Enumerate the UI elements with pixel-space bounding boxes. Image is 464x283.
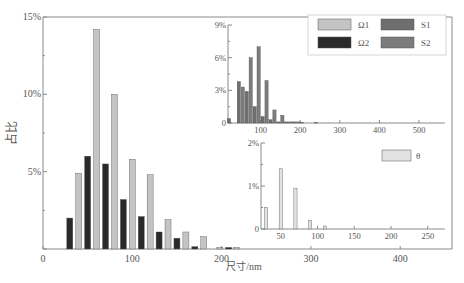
chart-canvas: 5%10%15%0100200300400 03%6%9%10020030040… [0,0,464,283]
x-tick-label: 0 [41,253,46,264]
bar-θ [264,208,267,230]
x-tick-label: 250 [421,231,434,241]
x-tick-label: 200 [385,231,398,241]
inset-bottom-plot: 01%2%50100150200250θ [248,138,445,241]
bar-Ω1 [129,159,135,249]
y-tick-label: 15% [23,11,41,22]
bar-S2 [265,81,268,123]
x-tick-label: 300 [303,253,318,264]
y-tick-label: 9% [215,20,226,30]
bar-Ω1 [111,94,117,249]
bar-S1 [301,122,304,123]
legend-swatch-S1 [381,19,414,30]
x-tick-label: 50 [277,231,286,241]
y-axis-label: 占比 [4,121,19,145]
legend-label: Ω1 [358,20,369,30]
y-tick-label: 1% [248,181,259,191]
x-tick-label: 100 [311,231,324,241]
y-tick-label: 0 [222,118,226,128]
legend-label: S1 [421,20,431,30]
bar-S1 [253,107,256,123]
legend-swatch-S2 [381,37,414,48]
x-tick-label: 100 [254,125,267,135]
bar-S1 [237,82,240,123]
bar-Ω1 [234,247,240,249]
bar-S1 [227,119,230,123]
bar-Ω2 [226,247,232,249]
bar-S1 [261,116,264,123]
bar-Ω1 [147,175,153,249]
bar-S2 [281,115,284,123]
y-tick-label: 2% [248,138,259,148]
y-tick-label: 5% [28,166,41,177]
bar-S2 [249,58,252,123]
bar-S2 [314,122,317,123]
bar-Ω2 [103,164,109,249]
bar-S1 [245,91,248,123]
bar-Ω2 [156,232,162,249]
legend-label: θ [416,151,420,161]
bar-S1 [285,122,288,123]
bar-Ω1 [76,173,82,249]
inset-top-plot: 03%6%9%100200300400500Ω1S1Ω2S2 [215,15,446,135]
x-tick-label: 400 [393,253,408,264]
x-tick-label: 100 [125,253,140,264]
x-axis-label: 尺寸/nm [226,260,262,272]
bar-S2 [273,110,276,123]
bar-θ [294,188,297,229]
bar-Ω1 [183,232,189,249]
bar-Ω1 [165,220,171,249]
y-tick-label: 10% [23,88,41,99]
bar-S1 [277,122,280,123]
bar-θ [309,220,312,229]
legend-swatch-Ω2 [318,37,351,48]
y-tick-label: 6% [215,53,226,63]
legend-label: S2 [421,38,431,48]
y-tick-label: 0 [255,224,259,234]
legend-swatch-Ω1 [318,19,351,30]
bar-S2 [241,87,244,123]
bar-Ω2 [192,247,198,249]
bar-S1 [293,122,296,123]
bar-S2 [297,122,300,123]
bar-Ω1 [217,247,223,249]
bar-Ω2 [138,217,144,249]
bar-Ω2 [174,238,180,249]
bar-Ω2 [67,218,73,249]
x-tick-label: 200 [294,125,307,135]
y-tick-label: 3% [215,85,226,95]
bar-θ [279,169,282,229]
legend-swatch-θ [382,150,411,161]
bar-θ [323,226,326,229]
x-tick-label: 500 [413,125,426,135]
bar-Ω1 [94,29,100,249]
legend-label: Ω2 [358,38,369,48]
x-tick-label: 150 [348,231,361,241]
bar-S2 [257,47,260,123]
x-tick-label: 300 [333,125,346,135]
x-tick-label: 400 [373,125,386,135]
bar-S2 [289,122,292,123]
bar-Ω1 [201,237,207,249]
bar-Ω2 [85,156,91,249]
bar-Ω2 [120,200,126,249]
bar-S1 [269,120,272,123]
